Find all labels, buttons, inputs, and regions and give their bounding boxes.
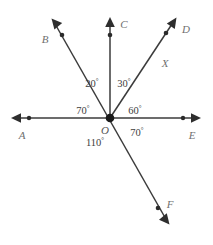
angle-unit-ab: ° [87, 104, 90, 112]
angle-unit-ef: ° [141, 126, 144, 134]
geometry-diagram: A B C D E F O X 20° 30° 70° 60 [0, 0, 213, 245]
vertex-point-o [106, 114, 115, 123]
angle-value-ab: 70 [76, 105, 87, 116]
angle-value-cd: 30 [117, 78, 128, 89]
angle-value-de: 60 [128, 105, 139, 116]
arrowhead-c-icon [105, 17, 115, 27]
angle-label-bc: 20° [85, 77, 99, 89]
point-marker-d [164, 31, 169, 36]
ray-od [110, 21, 174, 118]
point-marker-f [156, 206, 161, 211]
angle-value-af: 110 [86, 137, 101, 148]
point-marker-b [60, 33, 65, 38]
arrowheads-group [11, 17, 201, 225]
angle-value-bc: 20 [85, 78, 96, 89]
angle-value-ef: 70 [130, 127, 141, 138]
arrowhead-d-icon [167, 18, 177, 30]
angle-label-cd: 30° [117, 77, 131, 89]
rays-group [13, 20, 199, 221]
point-marker-a [27, 116, 31, 120]
angle-unit-bc: ° [96, 77, 99, 85]
arrowhead-a-icon [11, 113, 21, 123]
angle-label-ef: 70° [130, 126, 144, 138]
segment-label-x: X [161, 57, 170, 69]
angle-label-af: 110° [86, 136, 104, 148]
arrowhead-e-icon [191, 113, 201, 123]
angle-unit-af: ° [101, 136, 104, 144]
point-marker-c [108, 33, 113, 38]
vertex-label-o: O [101, 124, 109, 136]
angle-label-de: 60° [128, 104, 142, 116]
point-label-b: B [42, 33, 49, 45]
angle-unit-cd: ° [128, 77, 131, 85]
angle-label-ab: 70° [76, 104, 90, 116]
point-marker-e [181, 116, 185, 120]
point-label-f: F [166, 198, 174, 210]
geometry-canvas: A B C D E F O X 20° 30° 70° 60 [0, 0, 213, 245]
point-label-d: D [181, 23, 190, 35]
point-label-a: A [18, 129, 26, 141]
angle-unit-de: ° [139, 104, 142, 112]
point-label-c: C [120, 18, 128, 30]
point-label-e: E [188, 129, 196, 141]
